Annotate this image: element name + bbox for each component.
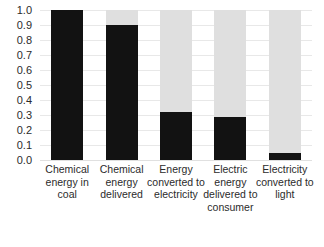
y-axis-tick-label: 0.0 [0,155,32,166]
bar-value-segment [269,153,301,161]
y-axis-tick-label: 0.5 [0,80,32,91]
bar-value-segment [160,112,192,160]
y-axis: 1.00.90.80.70.60.50.40.30.20.10.0 [0,10,36,160]
y-axis-tick-label: 0.8 [0,35,32,46]
bar [269,10,301,160]
x-axis-category-label: Chemical energy in coal [37,163,97,201]
x-axis-category-label: Electric energy delivered to consumer [200,163,260,213]
x-axis-category-label: Electricity converted to light [255,163,315,201]
bar [51,10,83,160]
plot-area [40,10,312,160]
y-axis-tick-label: 0.7 [0,50,32,61]
y-axis-tick-label: 0.6 [0,65,32,76]
bar [106,10,138,160]
bar-value-segment [214,117,246,161]
bar [160,10,192,160]
bar-value-segment [106,25,138,160]
y-axis-tick-label: 0.1 [0,140,32,151]
x-axis: Chemical energy in coalChemical energy d… [40,163,312,247]
y-axis-tick-label: 0.4 [0,95,32,106]
axis-baseline [40,160,312,161]
bar [214,10,246,160]
y-axis-tick-label: 0.3 [0,110,32,121]
bar-value-segment [51,10,83,160]
x-axis-category-label: Energy converted to electricity [146,163,206,201]
bar-group [40,10,312,160]
x-axis-category-label: Chemical energy delivered [92,163,152,201]
y-axis-tick-label: 1.0 [0,5,32,16]
bar-chart: 1.00.90.80.70.60.50.40.30.20.10.0 Chemic… [0,0,324,247]
y-axis-tick-label: 0.2 [0,125,32,136]
bar-remainder-segment [269,10,301,160]
y-axis-tick-label: 0.9 [0,20,32,31]
